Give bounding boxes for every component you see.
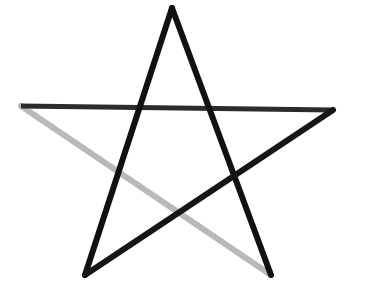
pentagram-figure (0, 0, 365, 296)
pentagram-svg (0, 0, 365, 296)
